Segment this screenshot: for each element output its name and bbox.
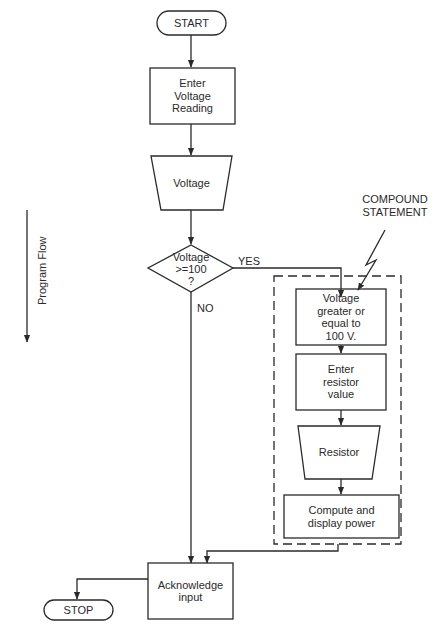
no-label: NO <box>197 302 214 315</box>
yes-label: YES <box>238 255 260 268</box>
compute-label: Compute and display power <box>284 495 399 538</box>
acknowledge-label: Acknowledge input <box>148 563 233 619</box>
decision-label: Voltage >=100 ? <box>160 248 222 290</box>
start-label: START <box>157 11 226 35</box>
voltage-ge-label: Voltage greater or equal to 100 V. <box>296 289 386 345</box>
enter-resistor-label: Enter resistor value <box>296 354 386 410</box>
enter-voltage-label: Enter Voltage Reading <box>150 68 235 124</box>
stop-label: STOP <box>44 600 113 620</box>
voltage-input-label: Voltage <box>151 156 232 210</box>
compound-statement-annotation: COMPOUND STATEMENT <box>355 193 433 219</box>
program-flow-label: Program Flow <box>36 237 48 305</box>
resistor-input-label: Resistor <box>298 426 380 479</box>
